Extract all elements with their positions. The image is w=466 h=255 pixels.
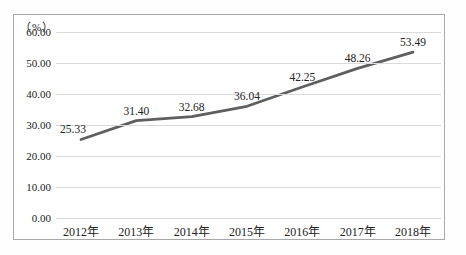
y-tick-label: 50.00	[14, 57, 51, 69]
data-point-label: 36.04	[225, 90, 269, 102]
x-tick-label: 2018年	[383, 222, 443, 240]
y-tick-label: 0.00	[14, 212, 51, 224]
y-tick-label: 60.00	[14, 26, 51, 38]
y-gridline	[56, 32, 441, 33]
y-gridline	[56, 63, 441, 64]
y-tick-label: 30.00	[14, 119, 51, 131]
y-tick-label: 10.00	[14, 181, 51, 193]
chart-frame: （%） 0.0010.0020.0030.0040.0050.0060.0020…	[13, 14, 445, 240]
data-point-label: 53.49	[391, 36, 435, 48]
data-point-label: 42.25	[280, 71, 324, 83]
data-point-label: 32.68	[170, 101, 214, 113]
y-gridline	[56, 218, 441, 219]
y-tick-label: 40.00	[14, 88, 51, 100]
x-tick-label: 2013年	[106, 222, 166, 240]
x-tick-label: 2016年	[272, 222, 332, 240]
y-gridline	[56, 156, 441, 157]
y-gridline	[56, 125, 441, 126]
x-tick-label: 2014年	[162, 222, 222, 240]
x-tick-label: 2017年	[328, 222, 388, 240]
x-tick-label: 2012年	[51, 222, 111, 240]
data-point-label: 31.40	[114, 105, 158, 117]
x-tick-label: 2015年	[217, 222, 277, 240]
y-gridline	[56, 187, 441, 188]
page-background: （%） 0.0010.0020.0030.0040.0050.0060.0020…	[0, 0, 466, 255]
y-tick-label: 20.00	[14, 150, 51, 162]
data-point-label: 25.33	[51, 123, 95, 135]
data-point-label: 48.26	[336, 52, 380, 64]
